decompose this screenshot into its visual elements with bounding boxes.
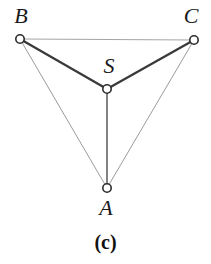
graph-node-c bbox=[190, 36, 198, 44]
graph-diagram bbox=[0, 0, 211, 264]
graph-edge-b-c bbox=[20, 39, 194, 40]
graph-node-s bbox=[103, 85, 111, 93]
graph-edge-c-a bbox=[107, 40, 194, 188]
graph-edge-b-a bbox=[20, 39, 107, 188]
node-label-s: S bbox=[104, 55, 115, 77]
graph-edge-b-s bbox=[20, 39, 107, 89]
figure-caption: (c) bbox=[0, 232, 211, 252]
graph-edge-s-c bbox=[107, 40, 194, 89]
figure-container: BCSA (c) bbox=[0, 0, 211, 264]
node-label-c: C bbox=[184, 5, 199, 27]
node-label-b: B bbox=[14, 5, 27, 27]
node-label-a: A bbox=[99, 197, 112, 219]
graph-node-b bbox=[16, 35, 24, 43]
graph-node-a bbox=[103, 184, 111, 192]
